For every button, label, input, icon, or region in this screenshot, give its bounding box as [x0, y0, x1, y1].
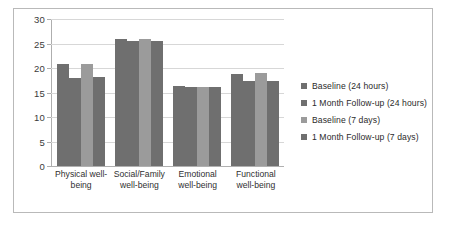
bar[interactable] — [185, 87, 197, 166]
legend-item[interactable]: Baseline (24 hours) — [301, 77, 429, 94]
legend-swatch-icon — [301, 117, 307, 123]
bar[interactable] — [151, 41, 163, 166]
bar-chart: 051015202530 Physical well-beingSocial/F… — [14, 9, 434, 214]
bar[interactable] — [267, 81, 279, 166]
bar[interactable] — [231, 74, 243, 166]
legend-label: Baseline (24 hours) — [312, 81, 388, 91]
bar-groups — [52, 19, 284, 166]
y-axis-tick — [47, 19, 51, 20]
bar[interactable] — [93, 77, 105, 166]
y-axis-tick-label: 0 — [40, 161, 45, 172]
legend-item[interactable]: 1 Month Follow-up (7 days) — [301, 128, 429, 145]
y-axis-tick — [47, 166, 51, 167]
bar[interactable] — [69, 78, 81, 166]
bar[interactable] — [255, 73, 267, 166]
bar[interactable] — [173, 86, 185, 166]
y-axis-tick — [47, 68, 51, 69]
legend-swatch-icon — [301, 134, 307, 140]
y-axis-tick-label: 15 — [34, 87, 45, 98]
legend-item[interactable]: Baseline (7 days) — [301, 111, 429, 128]
bar-group — [52, 19, 110, 166]
bar-group — [168, 19, 226, 166]
y-axis-tick — [47, 44, 51, 45]
bar[interactable] — [115, 39, 127, 166]
legend-label: 1 Month Follow-up (24 hours) — [312, 98, 427, 108]
x-axis-category-label: Emotionalwell-being — [169, 169, 227, 191]
y-axis-tick-label: 10 — [34, 112, 45, 123]
legend-label: 1 Month Follow-up (7 days) — [312, 132, 419, 142]
y-axis-tick-label: 30 — [34, 14, 45, 25]
x-axis-category-label: Social/Familywell-being — [110, 169, 168, 191]
legend-swatch-icon — [301, 83, 307, 89]
bar[interactable] — [81, 64, 93, 166]
legend-item[interactable]: 1 Month Follow-up (24 hours) — [301, 94, 429, 111]
legend-label: Baseline (7 days) — [312, 115, 380, 125]
gridline — [51, 166, 284, 167]
bar[interactable] — [243, 81, 255, 166]
x-axis-category-label: Physical well-being — [52, 169, 110, 191]
bar[interactable] — [197, 87, 209, 166]
bar[interactable] — [209, 87, 221, 166]
y-axis-tick-label: 20 — [34, 63, 45, 74]
y-axis-tick-label: 5 — [40, 136, 45, 147]
y-axis-tick — [47, 142, 51, 143]
figure-frame: 051015202530 Physical well-beingSocial/F… — [13, 8, 433, 213]
bar[interactable] — [139, 39, 151, 166]
bar[interactable] — [127, 41, 139, 166]
legend-swatch-icon — [301, 100, 307, 106]
y-axis-tick-label: 25 — [34, 38, 45, 49]
bar[interactable] — [57, 64, 69, 166]
y-axis-tick — [47, 117, 51, 118]
y-axis-tick — [47, 93, 51, 94]
bar-group — [110, 19, 168, 166]
chart-legend: Baseline (24 hours)1 Month Follow-up (24… — [301, 77, 429, 145]
x-axis-category-label: Functionalwell-being — [227, 169, 285, 191]
x-axis-labels: Physical well-beingSocial/Familywell-bei… — [52, 169, 285, 191]
plot-area: 051015202530 — [51, 19, 284, 166]
bar-group — [226, 19, 284, 166]
